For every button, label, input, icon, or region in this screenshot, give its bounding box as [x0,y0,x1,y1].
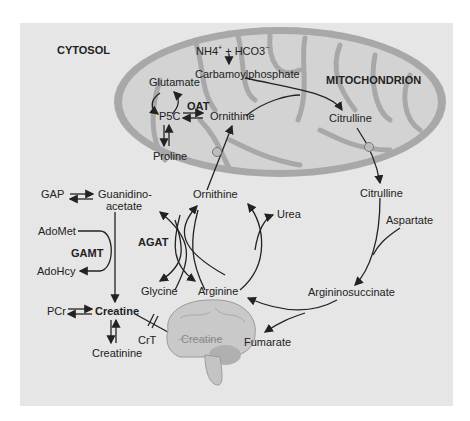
urea-label: Urea [277,208,301,220]
proline-label: Proline [153,150,187,162]
guanidinoacetate-label-1: Guanidino- [98,188,152,200]
brain-creatine-label: Creatine [181,333,223,345]
creatine-label: Creatine [95,305,139,317]
cytosol-ornithine-label: Ornithine [193,188,238,200]
fumarate-label: Fumarate [244,336,291,348]
cytosol-citrulline-label: Citrulline [360,187,403,199]
glutamate-label: Glutamate [149,76,200,88]
crt-transporter-label: CrT [138,334,156,346]
creatinine-label: Creatinine [92,347,142,359]
oat-enzyme-label: OAT [187,100,209,112]
p5c-label: P5C [159,110,180,122]
guanidinoacetate-label-2: acetate [106,200,142,212]
creatine-metabolism-diagram: CYTOSOL MITOCHONDRION NH4+ + HCO3− Carba… [0,0,470,421]
cytosol-label: CYTOSOL [57,44,110,56]
glycine-label: Glycine [141,285,178,297]
pathway-graphics [0,0,470,421]
mito-ornithine-label: Ornithine [210,110,255,122]
argininosuccinate-label: Argininosuccinate [308,286,395,298]
aspartate-label: Aspartate [386,214,433,226]
mitochondrion-label: MITOCHONDRION [326,74,421,86]
gamt-enzyme-label: GAMT [71,247,103,259]
adomet-label: AdoMet [38,225,76,237]
mito-citrulline-label: Citrulline [329,112,372,124]
carbamoylphosphate-label: Carbamoylphosphate [195,68,300,80]
gap-label: GAP [41,188,64,200]
pcr-label: PCr [47,305,66,317]
agat-enzyme-label: AGAT [138,236,168,248]
ammonium-bicarbonate-label: NH4+ + HCO3− [196,42,269,57]
arginine-label: Arginine [198,285,238,297]
adohcy-label: AdoHcy [37,265,76,277]
